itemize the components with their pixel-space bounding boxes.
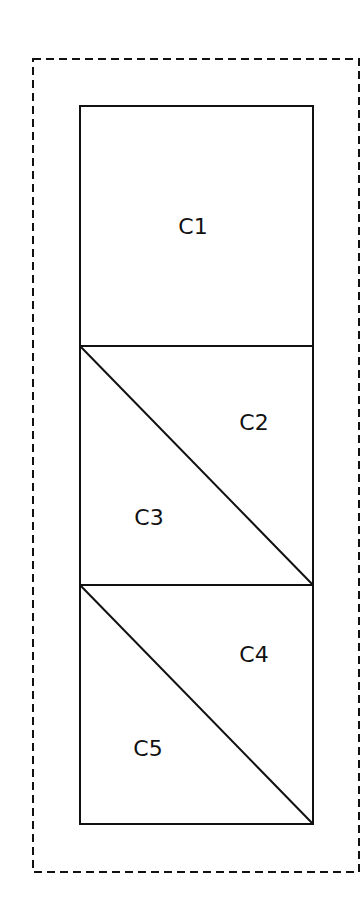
cell-label-c5: C5 <box>133 736 162 761</box>
diagonal-c2-c3 <box>80 346 313 585</box>
cell-label-c1: C1 <box>178 214 207 239</box>
cell-label-c3: C3 <box>134 505 163 530</box>
cell-diagram: C1 C2 C3 C4 C5 <box>0 0 363 907</box>
cell-label-c2: C2 <box>239 410 268 435</box>
cell-label-c4: C4 <box>239 642 268 667</box>
diagonal-c4-c5 <box>80 585 313 824</box>
